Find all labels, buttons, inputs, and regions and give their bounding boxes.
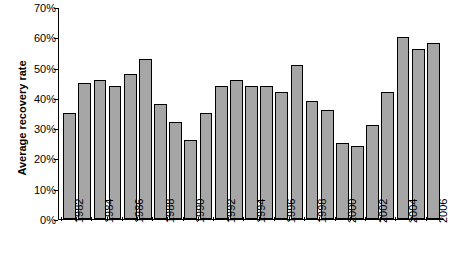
x-tick-slot	[169, 221, 182, 271]
x-tick-mark	[198, 217, 199, 221]
x-tick-slot	[412, 221, 425, 271]
x-tick-mark	[61, 217, 62, 221]
x-axis: 1982198419861988199019921994199619982000…	[58, 221, 444, 271]
bar-chart: Average recovery rate 0%10%20%30%40%50%6…	[0, 0, 458, 272]
x-tick-mark	[167, 217, 168, 221]
x-tick-mark	[304, 217, 305, 221]
x-tick-slot: 1996	[275, 221, 288, 271]
x-tick-slot: 1992	[214, 221, 227, 271]
y-axis: 0%10%20%30%40%50%60%70%	[0, 8, 56, 220]
x-tick-mark	[243, 217, 244, 221]
x-tick-slot	[381, 221, 394, 271]
x-tick-slot: 2004	[397, 221, 410, 271]
x-tick-mark	[259, 217, 260, 221]
x-tick-slot: 2006	[427, 221, 440, 271]
x-tick-mark	[76, 217, 77, 221]
bar	[291, 65, 304, 219]
x-tick-slot	[108, 221, 121, 271]
y-tick-label: 60%	[4, 33, 56, 43]
x-tick-mark	[107, 217, 108, 221]
x-tick-slot	[260, 221, 273, 271]
x-tick-mark	[380, 217, 381, 221]
x-tick-mark	[213, 217, 214, 221]
x-tick-mark	[365, 217, 366, 221]
x-tick-mark	[335, 217, 336, 221]
y-tick-label: 30%	[4, 124, 56, 134]
x-tick-slot	[321, 221, 334, 271]
x-tick-mark	[319, 217, 320, 221]
x-tick-mark	[228, 217, 229, 221]
x-tick-slot: 2000	[336, 221, 349, 271]
x-tick-mark	[350, 217, 351, 221]
x-tick-mark	[289, 217, 290, 221]
bar	[139, 59, 152, 220]
bar	[427, 43, 440, 219]
x-tick-mark	[395, 217, 396, 221]
x-tick-label: 2006	[438, 199, 449, 223]
x-tick-slot: 1986	[123, 221, 136, 271]
x-tick-slot	[199, 221, 212, 271]
y-tick-label: 0%	[4, 215, 56, 225]
plot-area	[58, 8, 444, 220]
y-tick-label: 10%	[4, 185, 56, 195]
x-tick-slot: 1988	[153, 221, 166, 271]
x-tick-mark	[91, 217, 92, 221]
bar-series	[59, 8, 444, 219]
x-tick-slot	[138, 221, 151, 271]
x-tick-slot: 1982	[62, 221, 75, 271]
x-tick-slot: 2002	[366, 221, 379, 271]
x-tick-slot: 1998	[305, 221, 318, 271]
bar	[124, 74, 137, 219]
y-tick-label: 70%	[4, 3, 56, 13]
x-tick-slot: 1994	[245, 221, 258, 271]
x-tick-mark	[274, 217, 275, 221]
x-tick-slot	[290, 221, 303, 271]
x-tick-slot	[77, 221, 90, 271]
x-tick-mark	[411, 217, 412, 221]
x-tick-mark	[152, 217, 153, 221]
y-tick-label: 20%	[4, 154, 56, 164]
x-tick-mark	[183, 217, 184, 221]
bar	[397, 37, 410, 219]
bar	[412, 49, 425, 219]
x-tick-mark	[122, 217, 123, 221]
x-tick-slot: 1990	[184, 221, 197, 271]
x-tick-slot: 1984	[93, 221, 106, 271]
x-tick-mark	[137, 217, 138, 221]
x-tick-slot	[229, 221, 242, 271]
y-tick-label: 40%	[4, 94, 56, 104]
x-tick-slot	[351, 221, 364, 271]
x-tick-mark	[426, 217, 427, 221]
y-tick-label: 50%	[4, 64, 56, 74]
